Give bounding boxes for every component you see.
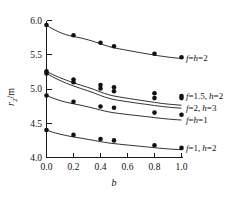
y-tick-label-4-5: 4.5 [30, 119, 42, 129]
point-f-h-2-0 [44, 23, 49, 28]
plot-area: 6.0 5.5 5.0 4.5 4.0 0.0 0.2 0.4 0.6 0.8 … [0, 0, 251, 197]
x-tick-label-0-2: 0.2 [68, 162, 80, 172]
point-f-h-1-1 [71, 99, 76, 104]
annotation-f15-h2-end: =2 [214, 91, 224, 101]
annotation-f2-h3-val: =2 [189, 103, 199, 113]
x-axis-tick-labels: 0.0 0.2 0.4 0.6 0.8 1.0 [41, 162, 188, 172]
annotation-f2-h3-end: =3 [207, 103, 217, 113]
point-f-h-2-1 [71, 33, 76, 38]
point-f-h-1-0 [44, 93, 49, 98]
x-tick-label-0-8: 0.8 [149, 162, 161, 172]
point-f2-h3-3 [112, 89, 117, 94]
annotation-f15-h2-comma: , [205, 91, 207, 101]
y-axis-title: r2/m [5, 88, 19, 106]
annotation-f2-h3-comma: , [198, 103, 200, 113]
x-tick-label-1-0: 1.0 [176, 162, 188, 172]
x-tick-label-0-0: 0.0 [41, 162, 53, 172]
y-axis-ticks [47, 21, 52, 158]
point-f15-h2-3 [112, 85, 117, 90]
point-f1-h2-2 [98, 137, 103, 142]
svg-text:r2/m: r2/m [5, 88, 19, 106]
annotation-f1-h2-end: =2 [207, 143, 217, 153]
chart-figure: 6.0 5.5 5.0 4.5 4.0 0.0 0.2 0.4 0.6 0.8 … [0, 0, 251, 197]
point-f-h-1-3 [112, 106, 117, 111]
point-f-h-1-2 [98, 104, 103, 109]
point-f-h-2-2 [98, 41, 103, 46]
series-annotations: f=h=2 f=1.5,h=2 f=2,h=3 f=h=1 f=1,h=2 [186, 53, 223, 154]
point-f-h-1-5 [179, 112, 184, 117]
point-f2-h3-2 [98, 86, 103, 91]
point-f15-h2-4 [152, 91, 157, 96]
annotation-f-h-2: f=h=2 [186, 53, 208, 63]
y-tick-label-6-0: 6.0 [30, 16, 42, 26]
y-axis-tick-labels: 6.0 5.5 5.0 4.5 4.0 [30, 16, 42, 163]
x-tick-label-0-4: 0.4 [95, 162, 107, 172]
point-f1-h2-3 [112, 138, 117, 143]
point-f1-h2-1 [71, 133, 76, 138]
annotation-f-h-1: f=h=1 [186, 115, 208, 125]
series-f1-h2 [44, 128, 184, 150]
annotation-f1-h2-comma: , [198, 143, 200, 153]
y-axis-title-rest: /m [5, 88, 16, 99]
annotation-f1-h2-val: =1 [189, 143, 199, 153]
point-f2-h3-0 [44, 71, 49, 76]
x-tick-label-0-6: 0.6 [122, 162, 134, 172]
y-tick-label-5-5: 5.5 [30, 50, 42, 60]
point-f-h-1-4 [152, 110, 157, 115]
x-axis-title: b [112, 177, 117, 188]
y-tick-label-5-0: 5.0 [30, 84, 42, 94]
point-f-h-2-3 [112, 44, 117, 49]
series-f2-h3 [44, 71, 184, 108]
point-f2-h3-4 [152, 96, 157, 101]
annotation-f2-h3: f=2,h=3 [186, 103, 217, 113]
annotation-f15-h2-val: =1.5 [189, 91, 206, 101]
point-f1-h2-5 [179, 146, 184, 151]
point-f1-h2-4 [152, 143, 157, 148]
annotation-f15-h2: f=1.5,h=2 [186, 91, 223, 101]
point-f2-h3-1 [71, 80, 76, 85]
annotation-f1-h2: f=1,h=2 [186, 143, 216, 153]
point-f2-h3-5 [179, 96, 184, 101]
point-f1-h2-0 [44, 128, 49, 133]
point-f-h-2-4 [152, 52, 157, 57]
series-f-h-2 [44, 23, 184, 60]
point-f-h-2-5 [179, 55, 184, 60]
annotation-f-h-1-end: =1 [198, 115, 208, 125]
x-axis-ticks [47, 153, 182, 158]
annotation-f-h-2-end: =2 [198, 53, 208, 63]
curve-f-h-2 [47, 25, 182, 59]
